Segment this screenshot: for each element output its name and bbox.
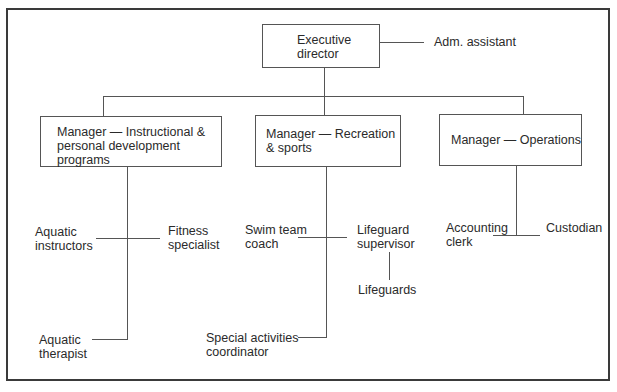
manager2-line2: & sports (266, 141, 395, 155)
m1-cross-line (96, 238, 160, 239)
mid-manager-up-line (324, 96, 325, 115)
lifeguard-line (389, 252, 390, 280)
m2-down-line (326, 167, 327, 338)
m3-down-line (516, 166, 517, 236)
exec-down-line (324, 68, 325, 97)
fitness-specialist-label: Fitness specialist (168, 224, 219, 252)
special-activities-label: Special activities coordinator (206, 331, 298, 359)
lifeguards-label: Lifeguards (358, 283, 416, 297)
manager1-line3: programs (57, 153, 205, 167)
manager-operations-box: Manager — Operations (439, 114, 582, 166)
executive-line1: Executive (297, 33, 351, 47)
executive-line2: director (297, 47, 351, 61)
lifeguard-supervisor-label: Lifeguard supervisor (357, 223, 415, 251)
adm-assistant-label: Adm. assistant (434, 35, 516, 49)
staff-connector (380, 42, 424, 43)
m2-special-line (298, 337, 326, 338)
m1-therapist-line (92, 339, 127, 340)
aquatic-therapist-label: Aquatic therapist (39, 333, 87, 361)
aquatic-instructors-label: Aquatic instructors (35, 225, 93, 253)
left-manager-up-line (103, 96, 104, 116)
accounting-clerk-label: Accounting clerk (446, 221, 508, 249)
manager3-line1: Manager — Operations (451, 133, 581, 147)
m1-down-line (127, 167, 128, 340)
manager-instructional-box: Manager — Instructional & personal devel… (40, 116, 222, 167)
manager-recreation-box: Manager — Recreation & sports (255, 115, 401, 167)
swim-team-coach-label: Swim team coach (245, 223, 307, 251)
custodian-label: Custodian (546, 221, 602, 235)
executive-director-box: Executive director (262, 24, 380, 68)
manager1-line2: personal development (57, 139, 205, 153)
manager-bus-line (103, 96, 524, 97)
right-manager-up-line (523, 96, 524, 114)
manager2-line1: Manager — Recreation (266, 127, 395, 141)
manager1-line1: Manager — Instructional & (57, 125, 205, 139)
